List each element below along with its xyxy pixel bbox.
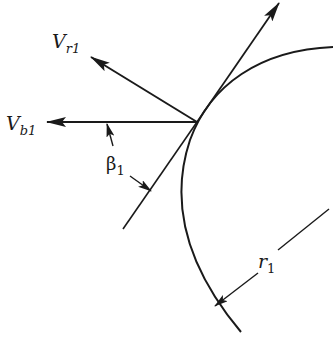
r1-radius-line-upper xyxy=(278,209,329,250)
v-r1-label: Vr1 xyxy=(52,30,80,56)
beta1-label: β1 xyxy=(106,153,125,178)
beta1-upper-arrow xyxy=(107,124,113,146)
v-b1-label: Vb1 xyxy=(6,112,36,138)
absolute-velocity-vector xyxy=(197,3,279,122)
r1-radius-arrow xyxy=(215,273,258,306)
r1-label-sub: 1 xyxy=(267,261,275,276)
beta1-label-main: β xyxy=(106,153,116,174)
v-b1-label-sub: b1 xyxy=(20,123,37,138)
beta1-lower-arrow xyxy=(130,176,151,191)
r1-label: r1 xyxy=(258,250,275,276)
impeller-inlet-arc xyxy=(182,47,333,332)
v-r1-label-sub: r1 xyxy=(66,41,81,56)
blade-tangent-line xyxy=(123,122,197,229)
impeller-inlet-velocity-diagram: Vr1 Vb1 β1 r1 xyxy=(0,0,333,339)
relative-velocity-vector xyxy=(91,57,197,122)
beta1-label-sub: 1 xyxy=(116,163,124,178)
